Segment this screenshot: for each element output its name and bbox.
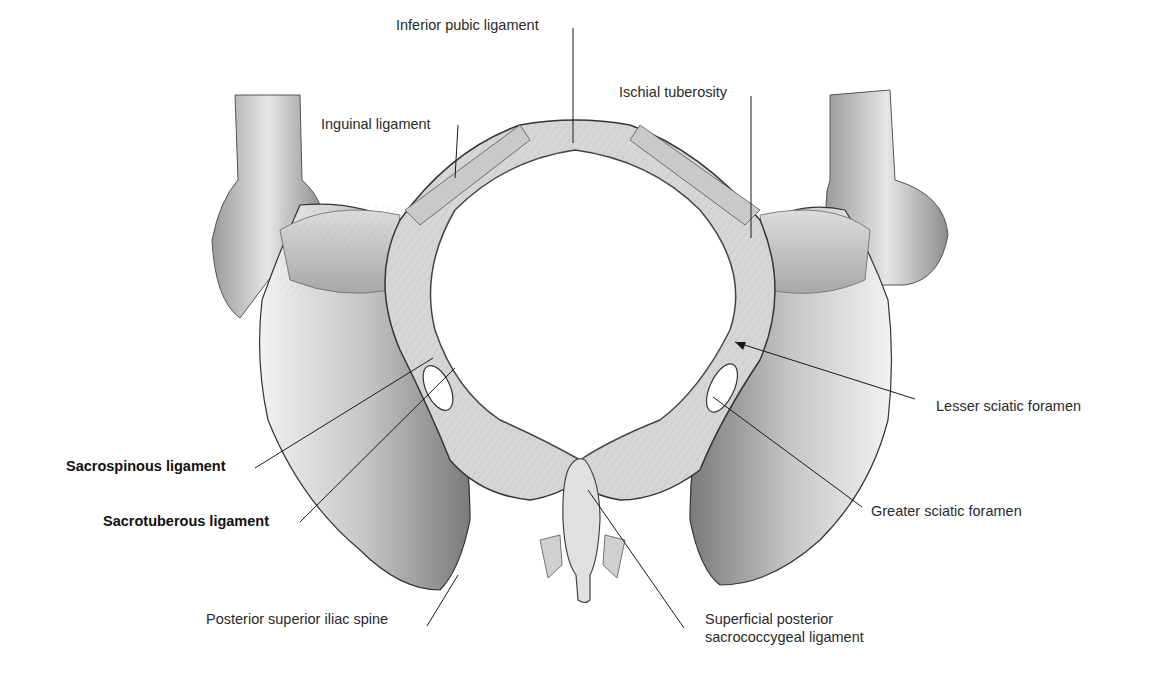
- label-superficial-posterior-sacrococcygeal-line1: Superficial posterior: [705, 610, 833, 628]
- label-lesser-sciatic-foramen: Lesser sciatic foramen: [936, 397, 1081, 415]
- label-inferior-pubic-ligament: Inferior pubic ligament: [396, 16, 539, 34]
- right-hip-ligament: [760, 210, 870, 293]
- label-sacrospinous-ligament: Sacrospinous ligament: [66, 457, 226, 475]
- label-inguinal-ligament: Inguinal ligament: [321, 115, 431, 133]
- label-superficial-posterior-sacrococcygeal-line2: sacrococcygeal ligament: [705, 628, 864, 646]
- label-sacrotuberous-ligament: Sacrotuberous ligament: [103, 512, 269, 530]
- label-greater-sciatic-foramen: Greater sciatic foramen: [871, 502, 1022, 520]
- pelvis-illustration: [0, 0, 1154, 680]
- label-posterior-superior-iliac-spine: Posterior superior iliac spine: [206, 610, 388, 628]
- label-ischial-tuberosity: Ischial tuberosity: [619, 83, 727, 101]
